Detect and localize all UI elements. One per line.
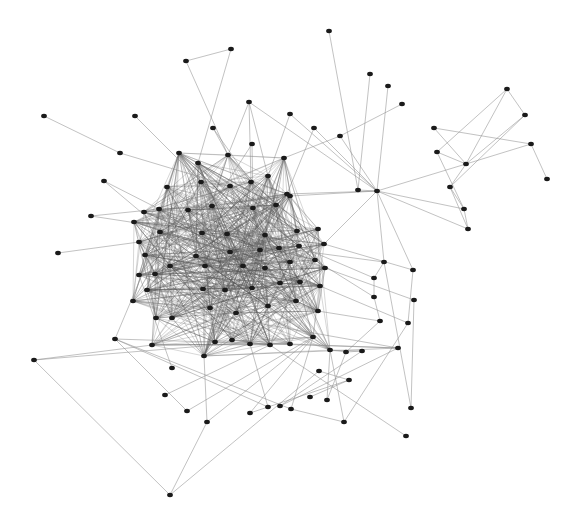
graph-edge	[115, 339, 268, 407]
graph-node	[293, 299, 299, 303]
graph-node	[288, 407, 294, 411]
graph-node	[176, 151, 182, 155]
graph-node	[185, 208, 191, 212]
graph-node	[193, 254, 199, 258]
graph-edge	[374, 262, 384, 278]
graph-node	[41, 114, 47, 118]
graph-node	[212, 340, 218, 344]
graph-node	[327, 348, 333, 352]
graph-edge	[344, 323, 408, 422]
graph-node	[316, 369, 322, 373]
graph-node	[355, 188, 361, 192]
graph-edge	[340, 104, 402, 136]
graph-node	[326, 29, 332, 33]
graph-node	[224, 232, 230, 236]
graph-edge	[290, 344, 398, 348]
graph-node	[227, 250, 233, 254]
graph-node	[434, 150, 440, 154]
graph-node	[204, 420, 210, 424]
graph-node	[399, 102, 405, 106]
graph-node	[149, 343, 155, 347]
graph-edge	[91, 209, 159, 216]
graph-node	[247, 411, 253, 415]
graph-node	[153, 316, 159, 320]
graph-node	[544, 177, 550, 181]
graph-edge	[270, 345, 406, 436]
graph-node	[281, 156, 287, 160]
graph-node	[210, 126, 216, 130]
graph-node	[374, 189, 380, 193]
graph-node	[142, 253, 148, 257]
graph-edge	[198, 49, 231, 163]
graph-node	[315, 309, 321, 313]
graph-node	[136, 273, 142, 277]
graph-node	[312, 258, 318, 262]
graph-edge	[58, 242, 139, 253]
graph-node	[246, 100, 252, 104]
graph-node	[411, 298, 417, 302]
graph-node	[184, 409, 190, 413]
graph-node	[408, 406, 414, 410]
graph-node	[199, 231, 205, 235]
graph-edge	[104, 181, 159, 209]
graph-node	[447, 185, 453, 189]
graph-edge	[358, 74, 370, 190]
graph-node	[265, 405, 271, 409]
graph-node	[131, 220, 137, 224]
graph-node	[297, 280, 303, 284]
graph-node	[167, 493, 173, 497]
graph-node	[277, 281, 283, 285]
graph-node	[287, 112, 293, 116]
graph-node	[522, 113, 528, 117]
graph-node	[240, 264, 246, 268]
graph-node	[88, 214, 94, 218]
graph-node	[262, 266, 268, 270]
graph-node	[371, 295, 377, 299]
graph-node	[265, 174, 271, 178]
graph-edge	[466, 144, 531, 164]
graph-node	[156, 207, 162, 211]
graph-node	[152, 272, 158, 276]
graph-edge	[170, 371, 319, 495]
graph-node	[343, 350, 349, 354]
graph-edge	[507, 89, 525, 115]
graph-node	[265, 304, 271, 308]
graph-edge	[186, 49, 231, 61]
graph-edge	[377, 191, 413, 270]
graph-node	[248, 180, 254, 184]
graph-edge	[384, 262, 411, 408]
graph-node	[461, 207, 467, 211]
graph-edge	[450, 164, 466, 187]
graph-node	[250, 206, 256, 210]
graph-node	[249, 142, 255, 146]
graph-edge	[450, 187, 464, 209]
graph-node	[310, 335, 316, 339]
graph-node	[381, 260, 387, 264]
graph-node	[157, 230, 163, 234]
graph-node	[273, 203, 279, 207]
graph-edge	[377, 191, 464, 209]
graph-node	[183, 59, 189, 63]
graph-node	[141, 210, 147, 214]
graph-node	[528, 142, 534, 146]
graph-node	[227, 184, 233, 188]
graph-edge	[377, 86, 388, 191]
graph-node	[287, 342, 293, 346]
graph-node	[315, 227, 321, 231]
graph-node	[195, 161, 201, 165]
graph-node	[395, 346, 401, 350]
graph-node	[225, 153, 231, 157]
graph-node	[249, 286, 255, 290]
graph-node	[169, 316, 175, 320]
graph-node	[200, 287, 206, 291]
graph-node	[228, 47, 234, 51]
graph-node	[317, 284, 323, 288]
graph-edge	[324, 191, 377, 244]
graph-node	[198, 180, 204, 184]
graph-node	[367, 72, 373, 76]
graph-node	[247, 342, 253, 346]
graph-node	[287, 194, 293, 198]
graph-node	[201, 354, 207, 358]
graph-node	[207, 306, 213, 310]
graph-node	[377, 319, 383, 323]
